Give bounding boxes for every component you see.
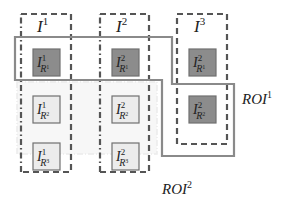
cell-i2-r1: I2R1 xyxy=(112,49,139,76)
cell-i3-r2: I2R2 xyxy=(189,96,216,123)
cell-i2-r3: I2R3 xyxy=(112,143,139,170)
image-label-i2: I2 xyxy=(115,15,127,36)
image-label-i3: I3 xyxy=(193,15,206,36)
image-label-i1: I1 xyxy=(36,15,48,36)
cell-i1-r1: I1R1 xyxy=(33,49,60,76)
cell-i1-r2: I1R2 xyxy=(33,96,60,123)
roi2-label: ROI2 xyxy=(161,179,192,197)
cell-i1-r3: I1R3 xyxy=(33,143,60,170)
cell-i3-r1: I2R1 xyxy=(189,49,216,76)
roi-diagram: I1 I2 I3 I1R1 I1R2 I1R3 I2R1 I2R2 I2R3 I… xyxy=(0,0,282,209)
image-box-i3 xyxy=(177,14,227,144)
cell-i2-r2: I2R2 xyxy=(112,96,139,123)
roi1-label: ROI1 xyxy=(241,89,272,107)
